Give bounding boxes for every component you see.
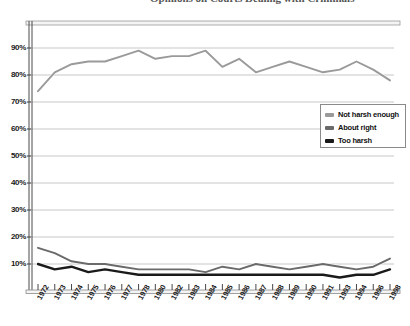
legend-item[interactable]: Not harsh enough [325,108,402,121]
y-axis-tick-label: 10% [0,259,26,268]
y-axis-tick-label: 70% [0,97,26,106]
legend-swatch-too-harsh [325,139,334,143]
legend-swatch-about-right [325,126,334,130]
legend-label-not-harsh-enough: Not harsh enough [338,110,399,119]
y-axis-tick-label: 30% [0,205,26,214]
plot-top-border [26,21,400,25]
y-axis-tick-label: 80% [0,70,26,79]
chart-legend: Not harsh enough About right Too harsh [320,104,406,148]
y-axis-tick-label: 90% [0,43,26,52]
plot-area [0,0,410,326]
legend-label-about-right: About right [338,123,376,132]
y-axis-tick-label: 40% [0,178,26,187]
y-axis-tick-label: 20% [0,232,26,241]
legend-item[interactable]: Too harsh [325,134,402,147]
legend-label-too-harsh: Too harsh [338,136,372,145]
legend-item[interactable]: About right [325,121,402,134]
series-line-about-right [38,248,390,272]
chart-container: Opinions on Courts Dealing with Criminal… [0,0,410,326]
legend-swatch-not-harsh-enough [325,113,334,117]
y-axis-tick-label: 50% [0,151,26,160]
y-axis-tick-label: 60% [0,124,26,133]
